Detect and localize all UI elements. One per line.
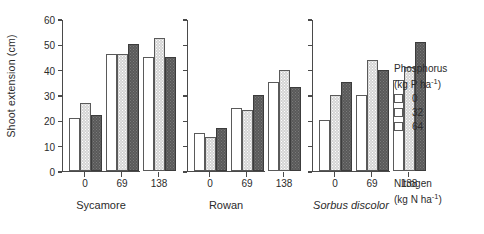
x-axis-label-line2: (kg N ha-1) — [394, 190, 484, 206]
x-tick — [84, 172, 85, 177]
y-tick — [58, 45, 63, 46]
x-tick-label: 0 — [332, 178, 338, 189]
y-tick — [308, 146, 313, 147]
y-tick — [308, 95, 313, 96]
bar-sorbus-discolor-n69-p64 — [378, 70, 389, 171]
legend-label: 32 — [412, 107, 423, 118]
y-tick — [183, 19, 188, 20]
panel-sorbus-discolor — [312, 20, 390, 172]
legend-swatch-32 — [394, 108, 403, 117]
bar-rowan-n69-p0 — [231, 108, 242, 171]
bar-group-69 — [106, 20, 139, 171]
y-tick-label: 10 — [44, 141, 55, 152]
legend-label: 0 — [412, 93, 418, 104]
panel-title: Sorbus discolor — [313, 199, 389, 211]
legend-swatch-64 — [394, 122, 403, 131]
x-axis-unit-base: (kg N ha — [394, 194, 432, 205]
x-tick-label: 138 — [151, 178, 168, 189]
bar-sorbus-discolor-n0-p32 — [330, 95, 341, 171]
x-tick — [371, 172, 372, 177]
y-tick — [58, 95, 63, 96]
legend-item-64: 64 — [394, 120, 484, 133]
bar-sorbus-discolor-n69-p32 — [367, 60, 378, 171]
plot-area — [188, 20, 265, 171]
panel-title: Sycamore — [76, 199, 126, 211]
y-tick — [183, 95, 188, 96]
y-axis-label: Shoot extension (cm) — [2, 0, 20, 172]
legend-label: 64 — [412, 121, 423, 132]
legend: Phosphorus (kg P ha-1) 03264 — [394, 62, 484, 133]
x-tick-label: 138 — [276, 178, 293, 189]
legend-unit-base: (kg P ha — [394, 79, 431, 90]
x-tick-label: 69 — [241, 178, 252, 189]
y-tick — [308, 45, 313, 46]
legend-unit-sup: -1 — [431, 77, 438, 86]
plot-area — [313, 20, 390, 171]
y-tick-label: 40 — [44, 65, 55, 76]
bar-group-138 — [268, 20, 301, 171]
bar-sycamore-n69-p32 — [117, 54, 128, 171]
bar-sycamore-n0-p32 — [80, 103, 91, 171]
x-tick — [408, 172, 409, 177]
bar-group-0 — [194, 20, 227, 171]
y-tick — [183, 70, 188, 71]
bar-rowan-n69-p32 — [242, 110, 253, 171]
bar-rowan-n0-p0 — [194, 133, 205, 171]
legend-item-0: 0 — [394, 92, 484, 105]
bar-sycamore-n138-p64 — [165, 57, 176, 171]
y-tick — [308, 70, 313, 71]
y-tick-label: 30 — [44, 91, 55, 102]
x-tick-label: 0 — [82, 178, 88, 189]
x-tick-label: 0 — [207, 178, 213, 189]
legend-rows: 03264 — [394, 92, 484, 133]
y-tick — [58, 171, 63, 172]
bar-sycamore-n138-p32 — [154, 38, 165, 171]
legend-title-line1: Phosphorus — [394, 62, 484, 75]
legend-item-32: 32 — [394, 106, 484, 119]
bar-sycamore-n69-p64 — [128, 44, 139, 171]
panel-title: Rowan — [209, 199, 243, 211]
bar-sycamore-n138-p0 — [143, 57, 154, 171]
bar-sorbus-discolor-n0-p64 — [341, 82, 352, 171]
y-tick — [183, 171, 188, 172]
bar-group-69 — [231, 20, 264, 171]
bar-rowan-n138-p32 — [279, 70, 290, 171]
plot-area — [63, 20, 140, 171]
y-tick-label: 60 — [44, 15, 55, 26]
x-tick — [283, 172, 284, 177]
bar-rowan-n0-p64 — [216, 128, 227, 171]
y-tick-label: 20 — [44, 116, 55, 127]
panel-sycamore: 0102030405060 — [62, 20, 140, 172]
x-tick — [246, 172, 247, 177]
bar-group-69 — [356, 20, 389, 171]
y-tick — [308, 19, 313, 20]
bar-sycamore-n69-p0 — [106, 54, 117, 171]
bar-group-0 — [69, 20, 102, 171]
bar-sycamore-n0-p64 — [91, 115, 102, 171]
legend-swatch-0 — [394, 94, 403, 103]
bar-sorbus-discolor-n69-p0 — [356, 95, 367, 171]
y-tick — [58, 121, 63, 122]
y-tick — [308, 171, 313, 172]
x-tick-label: 69 — [366, 178, 377, 189]
y-tick — [183, 45, 188, 46]
x-axis-unit-tail: ) — [438, 194, 441, 205]
legend-title-line2: (kg P ha-1) — [394, 75, 484, 91]
x-tick — [209, 172, 210, 177]
y-axis-label-text: Shoot extension (cm) — [5, 34, 17, 137]
bar-rowan-n138-p0 — [268, 82, 279, 171]
y-tick — [58, 70, 63, 71]
legend-unit-tail: ) — [438, 79, 441, 90]
bar-rowan-n138-p64 — [290, 87, 301, 171]
x-tick-label: 69 — [116, 178, 127, 189]
bar-rowan-n0-p32 — [205, 137, 216, 171]
panel-rowan — [187, 20, 265, 172]
y-tick — [183, 121, 188, 122]
bar-group-138 — [143, 20, 176, 171]
bar-sorbus-discolor-n0-p0 — [319, 120, 330, 171]
y-tick-label: 0 — [49, 167, 55, 178]
x-tick-label: 138 — [401, 178, 418, 189]
x-tick — [121, 172, 122, 177]
bar-sycamore-n0-p0 — [69, 118, 80, 171]
y-tick — [308, 121, 313, 122]
